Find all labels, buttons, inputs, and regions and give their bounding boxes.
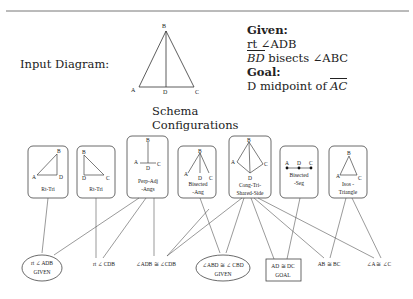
box7-point-b: B (347, 150, 351, 156)
box3-point-c: C (157, 161, 161, 167)
fact-rt-cdb: rt ∠ CDB (93, 261, 115, 267)
box3-point-a: A (134, 159, 138, 165)
schema-title-line1: Schema (152, 104, 238, 118)
box5-label2: Shared-Side (237, 190, 264, 196)
box5-point-b: B (247, 137, 251, 143)
fact-ad-dc-goal: GOAL (275, 272, 291, 278)
fact-node-rt-adb (22, 255, 62, 281)
fact-rt-adb: rt ∠ ADB (31, 260, 53, 266)
box1-label: Rt-Tri (41, 186, 55, 192)
fact-abd-cbd-given: GIVEN (214, 271, 231, 277)
fact-abd-cbd: ∠ABD ≅ ∠ CBD (202, 262, 243, 268)
box3-point-b: B (146, 137, 150, 143)
input-triangle (139, 31, 194, 87)
box3-point-d: D (146, 165, 150, 171)
box4-label1: Bisected (189, 181, 208, 187)
box2-label: Rt-Tri (89, 186, 103, 192)
box7-label1: Isos - (342, 181, 354, 187)
schema-diagram: B A D C B A (0, 0, 413, 299)
box5-label1: Cong-Tri- (239, 182, 261, 188)
given-line-1: rt ∠ADB (247, 37, 348, 51)
given-rt-angle: rt ∠ADB (247, 37, 296, 51)
box5-point-d: D (248, 175, 252, 181)
box5-point-a: A (231, 159, 235, 165)
box3-label1: Perp-Adj (138, 178, 159, 184)
fact-rt-adb-given: GIVEN (33, 269, 50, 275)
box2-point-d: D (82, 175, 86, 181)
given-line-2: BD bisects ∠ABC (247, 51, 348, 65)
box7-point-c: C (358, 175, 362, 181)
connection-lines (42, 198, 381, 259)
box6-point-a: A (285, 160, 289, 166)
point-label-c: C (195, 89, 199, 95)
schema-title: Schema Configurations (152, 104, 238, 132)
box3-label2: -Angs (141, 186, 154, 192)
given-heading: Given: (247, 23, 348, 37)
box1-point-a: A (32, 174, 36, 180)
box2-point-c: C (106, 175, 110, 181)
box6-label1: Bisected (290, 172, 309, 178)
box4-point-c: C (209, 175, 213, 181)
point-label-a: A (131, 87, 136, 93)
box6-point-d: D (297, 160, 301, 166)
goal-line: D midpoint of AC (247, 79, 348, 93)
box6-point-c: C (309, 160, 313, 166)
input-diagram-label: Input Diagram: (20, 57, 109, 71)
goal-heading: Goal: (247, 65, 348, 79)
box1-point-d: D (59, 174, 63, 180)
fact-ab-bc: AB ≅ BC (318, 261, 341, 267)
fact-ad-dc: AD ≅ DC (271, 263, 295, 269)
box4-label2: -Ang (192, 189, 204, 195)
point-label-b: B (162, 23, 166, 29)
fact-node-abd-cbd (196, 255, 250, 281)
box6-label2: -Seg (294, 180, 304, 186)
fact-adb-cdb: ∠ADB ≅ ∠CDB (136, 261, 176, 267)
box4-point-b: B (198, 148, 202, 154)
given-segment-bd: BD (247, 50, 265, 65)
box1-point-b: B (57, 148, 61, 154)
box2-point-b: B (82, 149, 86, 155)
schema-title-line2: Configurations (152, 118, 238, 132)
goal-segment-ac: AC (330, 78, 347, 93)
point-label-d: D (163, 89, 168, 95)
box5-point-c: C (264, 161, 268, 167)
fact-a-c: ∠A ≅ ∠C (367, 261, 392, 267)
box7-label2: Triangle (339, 189, 358, 195)
given-bisects: bisects ∠ABC (265, 51, 348, 65)
goal-prefix: D midpoint of (247, 79, 330, 93)
box7-point-a: A (336, 173, 340, 179)
box4-point-a: A (184, 171, 188, 177)
problem-statement: Given: rt ∠ADB BD bisects ∠ABC Goal: D m… (247, 23, 348, 93)
